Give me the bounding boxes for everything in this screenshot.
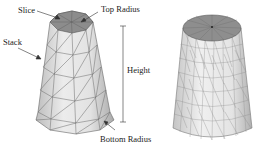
label-bottom-radius: Bottom Radius [100, 135, 151, 144]
label-slice: Slice [18, 6, 35, 15]
label-stack: Stack [3, 38, 22, 47]
label-top-radius: Top Radius [101, 5, 140, 14]
label-height: Height [127, 66, 150, 75]
coarse-frustum-mesh [36, 11, 114, 134]
fine-frustum-mesh [173, 15, 252, 140]
